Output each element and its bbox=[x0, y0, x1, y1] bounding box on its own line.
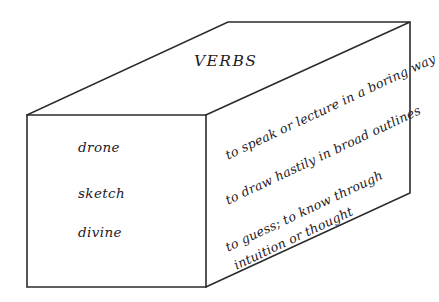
page-title: VERBS bbox=[194, 52, 257, 70]
vocabulary-word: drone bbox=[78, 139, 120, 155]
vocabulary-word: sketch bbox=[78, 185, 125, 201]
box-wireframe bbox=[0, 0, 439, 302]
vocabulary-box-diagram: VERBS drone sketch divine to speak or le… bbox=[0, 0, 439, 302]
vocabulary-word: divine bbox=[78, 224, 122, 240]
